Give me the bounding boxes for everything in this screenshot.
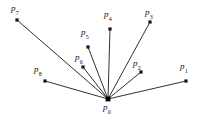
vertex-label-subscript: 5 [86,34,89,40]
vertex-label-base: p [11,3,16,13]
vertex-label-p0: p0 [103,103,111,116]
edge-p0-p7 [17,20,108,99]
vertex-label-p8: p8 [34,65,42,78]
vertex-label-subscript: 3 [150,14,153,20]
edge-p0-p5 [88,47,108,99]
vertex-label-subscript: 1 [185,68,188,74]
figure-canvas [0,0,203,121]
vertex-dot-p4 [108,27,111,30]
vertex-label-base: p [104,9,109,19]
vertex-label-p4: p4 [104,10,112,23]
vertex-label-p7: p7 [11,4,19,17]
vertex-label-p6: p6 [75,53,83,66]
vertex-dot-p0 [106,97,111,102]
vertex-label-base: p [145,7,150,17]
edge-p0-p8 [45,81,108,99]
vertex-label-p3: p3 [145,8,153,21]
vertex-label-subscript: 2 [138,65,141,71]
vertex-label-base: p [75,52,80,62]
vertex-label-subscript: 8 [39,71,42,77]
edge-p0-p4 [108,29,110,99]
vertex-label-base: p [34,64,39,74]
vertex-label-p1: p1 [180,62,188,75]
vertex-dot-p1 [184,79,187,82]
vertex-dot-p7 [15,18,18,21]
edge-p0-p3 [108,22,150,99]
vertices-group [15,18,187,101]
vertex-dot-p3 [148,20,151,23]
vertex-label-base: p [103,102,108,112]
edge-p0-p6 [83,67,108,99]
edges-group [17,20,186,99]
vertex-dot-p8 [43,79,46,82]
vertex-label-subscript: 0 [108,109,111,115]
vertex-label-subscript: 7 [16,10,19,16]
vertex-label-base: p [180,61,185,71]
vertex-label-p5: p5 [81,28,89,41]
vertex-dot-p6 [81,65,84,68]
vertex-label-base: p [81,27,86,37]
vertex-dot-p5 [86,45,89,48]
star-graph-figure: p1p2p3p4p5p6p7p8p0 [0,0,203,121]
vertex-label-subscript: 4 [109,16,112,22]
vertex-label-subscript: 6 [80,59,83,65]
vertex-label-p2: p2 [133,59,141,72]
vertex-label-base: p [133,58,138,68]
